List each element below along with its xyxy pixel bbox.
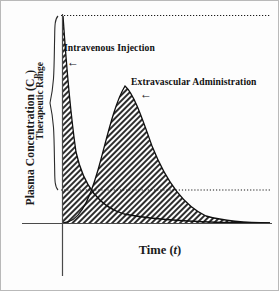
x-axis-label: Time (t) — [100, 243, 220, 258]
x-axis-label-close: ) — [177, 243, 181, 257]
intravenous-pointer-arrow-icon: ← — [67, 56, 79, 68]
therapeutic-range-label: Therapeutic Range — [35, 41, 45, 161]
extravascular-pointer-arrow-icon: ← — [140, 88, 152, 100]
intravenous-injection-label: Intravenous Injection — [64, 42, 155, 53]
pharmacokinetics-chart: Plasma Concentration (Cp) Therapeutic Ra… — [0, 0, 279, 291]
therapeutic-range-brace — [50, 16, 58, 190]
x-axis-label-main: Time ( — [139, 243, 174, 257]
extravascular-administration-label: Extravascular Administration — [131, 76, 256, 87]
